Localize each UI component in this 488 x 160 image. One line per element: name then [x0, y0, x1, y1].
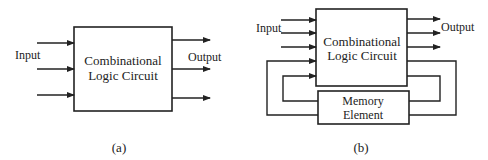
- block-a-line1: Combinational: [84, 53, 162, 68]
- block-a-line2: Logic Circuit: [88, 68, 158, 83]
- output-label-a: Output: [188, 50, 222, 64]
- block-b-line1: Combinational: [323, 34, 401, 49]
- input-label-b: Input: [256, 21, 282, 35]
- block-b-line2: Logic Circuit: [327, 48, 397, 63]
- caption-b: (b): [353, 140, 368, 155]
- feedback-loop-inner-left: [283, 76, 318, 101]
- figure-b: Combinational Logic Circuit Memory Eleme…: [256, 9, 475, 155]
- feedback-loop-outer-right: [407, 61, 456, 115]
- caption-a: (a): [112, 140, 126, 155]
- output-label-b: Output: [441, 20, 475, 34]
- input-label-a: Input: [15, 48, 41, 62]
- memory-line2: Element: [343, 108, 384, 122]
- figure-a: Combinational Logic Circuit Input Output…: [15, 27, 222, 155]
- feedback-loop-inner-right: [407, 76, 440, 101]
- memory-line1: Memory: [342, 94, 383, 108]
- feedback-loop-outer-left: [267, 61, 318, 115]
